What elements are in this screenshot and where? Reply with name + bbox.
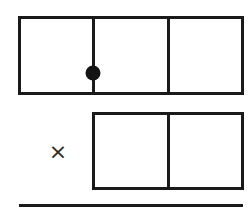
fraction-diagram: × xyxy=(0,0,250,213)
bottom-horizontal-rule xyxy=(19,204,243,207)
top-bar-cell-2 xyxy=(92,19,166,92)
top-bar-cell-3 xyxy=(167,19,241,92)
bottom-bar xyxy=(92,112,244,190)
bottom-bar-cell-1 xyxy=(95,115,167,187)
top-bar xyxy=(18,16,244,95)
bottom-bar-cell-2 xyxy=(167,115,242,187)
multiplication-sign-icon: × xyxy=(45,138,71,166)
top-bar-cell-1 xyxy=(21,19,92,92)
